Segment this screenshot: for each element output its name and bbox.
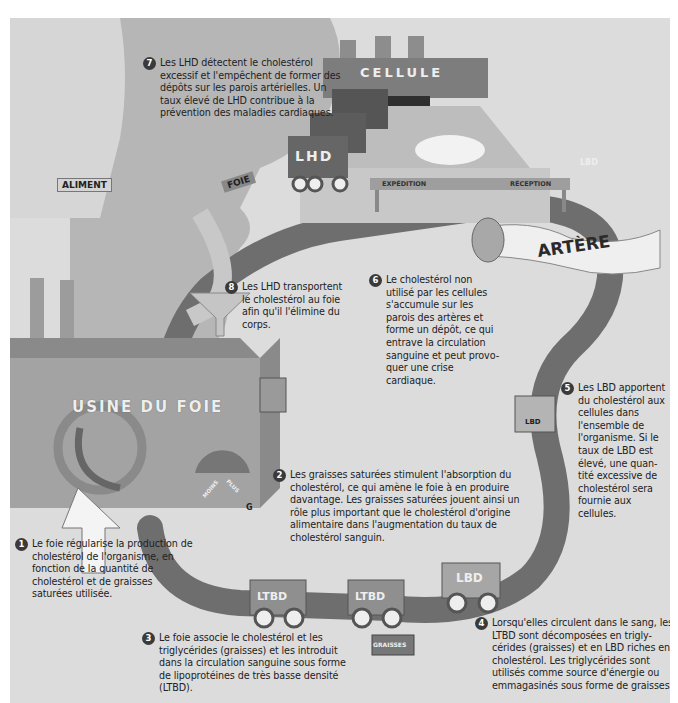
- step-4-badge: 4: [475, 617, 488, 630]
- step-3-badge: 3: [142, 632, 155, 645]
- step-7-badge: 7: [143, 57, 156, 70]
- step-5-badge: 5: [561, 382, 574, 395]
- step-8-note: 8 Les LHD transportent le cholestérol au…: [225, 281, 345, 331]
- cellule-label: CELLULE: [360, 65, 443, 80]
- ltbd-cart-2-label: LTBD: [355, 590, 385, 603]
- lbd-cart-top-label: LBD: [580, 158, 598, 167]
- lbd-box: [515, 396, 555, 432]
- step-8-badge: 8: [225, 281, 238, 294]
- step-5-note: 5 Les LBD apportent du cholestérol aux c…: [561, 382, 669, 521]
- step-1-note: 1 Le foie régularise la production de ch…: [15, 538, 195, 601]
- step-1-text: Le foie régularise la production de chol…: [32, 538, 195, 601]
- lhd-truck-label: LHD: [295, 148, 333, 164]
- step-2-note: 2 Les graisses saturées stimulent l'abso…: [273, 469, 523, 545]
- usine-du-foie-label: USINE DU FOIE: [72, 398, 223, 416]
- step-2-badge: 2: [273, 469, 286, 482]
- step-6-badge: 6: [369, 274, 382, 287]
- graisses-sign: GRAISSES: [373, 641, 406, 648]
- step-7-text: Les LHD détectent le cholestérol excessi…: [160, 57, 343, 120]
- worker-badge: G: [246, 503, 253, 512]
- ltbd-cart-1-label: LTBD: [257, 590, 287, 603]
- cholesterol-cycle-diagram: CELLULE LHD EXPÉDITION RÉCEPTION LBD ART…: [10, 18, 670, 703]
- step-6-text: Le cholestérol non utilisé par les cellu…: [386, 274, 499, 387]
- expedition-label: EXPÉDITION: [382, 180, 426, 188]
- step-7-note: 7 Les LHD détectent le cholestérol exces…: [143, 57, 343, 120]
- step-5-text: Les LBD apportent du cholestérol aux cel…: [578, 382, 669, 521]
- step-3-note: 3 Le foie associe le cholestérol et les …: [142, 632, 352, 695]
- reception-label: RÉCEPTION: [510, 180, 551, 188]
- step-3-text: Le foie associe le cholestérol et les tr…: [159, 632, 352, 695]
- aliment-sign: ALIMENT: [57, 178, 112, 192]
- lbd-box-label: LBD: [525, 418, 541, 426]
- step-1-badge: 1: [15, 538, 28, 551]
- step-8-text: Les LHD transportent le cholestérol au f…: [242, 281, 345, 331]
- step-2-text: Les graisses saturées stimulent l'absorp…: [290, 469, 523, 545]
- step-4-text: Lorsqu'elles circulent dans le sang, les…: [492, 617, 670, 693]
- lbd-cart-bottom-label: LBD: [456, 571, 483, 585]
- step-6-note: 6 Le cholestérol non utilisé par les cel…: [369, 274, 499, 387]
- step-4-note: 4 Lorsqu'elles circulent dans le sang, l…: [475, 617, 670, 693]
